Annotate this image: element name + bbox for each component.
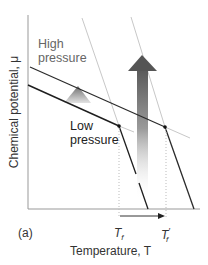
freezing-point-shift-arrow-icon: [120, 213, 165, 219]
low-pressure-label: Low pressure: [70, 119, 119, 147]
solid-line-low-pressure-extension: [82, 18, 119, 126]
solid-line-low-pressure-upper: [119, 126, 136, 174]
pressure-increase-arrow-icon: [128, 55, 157, 200]
tick-label-tf-prime: T′f: [161, 226, 168, 244]
high-pressure-label-line2: pressure: [38, 51, 87, 65]
tick-label-tf-prime-mark: ′: [168, 226, 170, 236]
tick-label-tf: Tf: [114, 226, 124, 242]
panel-label: (a): [18, 226, 33, 240]
high-pressure-label-line1: High: [38, 37, 87, 51]
x-axis-label: Temperature, T: [70, 244, 151, 258]
solid-line-high-pressure: [165, 127, 194, 209]
high-pressure-label: High pressure: [38, 37, 87, 65]
low-pressure-label-line1: Low: [70, 119, 119, 133]
tick-label-tf-sub: f: [121, 233, 123, 242]
y-axis-label: Chemical potential, μ: [7, 56, 21, 168]
low-pressure-label-line2: pressure: [70, 133, 119, 147]
freezing-point-high-pressure: [163, 125, 167, 129]
tick-label-tf-prime-sub: f: [166, 235, 168, 244]
